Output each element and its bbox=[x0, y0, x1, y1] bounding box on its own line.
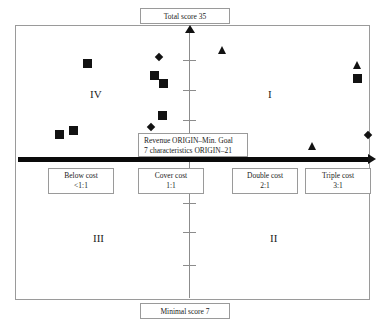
cost-category-triple-cost: Triple cost 3:1 bbox=[305, 168, 371, 194]
data-point-square bbox=[159, 79, 168, 88]
y-axis-tick bbox=[183, 60, 196, 61]
data-point-triangle bbox=[308, 142, 316, 150]
data-point-square bbox=[150, 71, 159, 80]
quadrant-label-three: III bbox=[93, 232, 104, 244]
quadrant-label-four: IV bbox=[90, 88, 102, 100]
plot-frame bbox=[15, 25, 370, 300]
x-axis-line bbox=[18, 157, 370, 162]
y-axis-tick bbox=[183, 265, 196, 266]
origin-annotation-line-1: Revenue ORIGIN–Min. Goal bbox=[144, 136, 244, 146]
data-point-triangle bbox=[353, 61, 361, 69]
y-axis-tick bbox=[183, 203, 196, 204]
data-point-square bbox=[158, 111, 167, 120]
cost-category-name: Below cost bbox=[52, 171, 110, 181]
cost-category-ratio: <1:1 bbox=[52, 181, 110, 191]
y-axis-tick bbox=[183, 120, 196, 121]
cost-category-below-cost: Below cost <1:1 bbox=[48, 168, 114, 194]
y-axis-arrow-icon bbox=[185, 25, 195, 33]
cost-category-ratio: 1:1 bbox=[142, 181, 200, 191]
quadrant-label-one: I bbox=[268, 88, 272, 100]
quadrant-label-two: II bbox=[270, 232, 277, 244]
data-point-square bbox=[83, 59, 92, 68]
cost-category-name: Triple cost bbox=[309, 171, 367, 181]
origin-annotation-box: Revenue ORIGIN–Min. Goal 7 characteristi… bbox=[138, 133, 248, 157]
data-point-square bbox=[55, 130, 64, 139]
cost-category-cover-cost: Cover cost 1:1 bbox=[138, 168, 204, 194]
data-point-square bbox=[69, 126, 78, 135]
data-point-square bbox=[353, 74, 362, 83]
cost-category-double-cost: Double cost 2:1 bbox=[232, 168, 298, 194]
y-axis-min-label: Minimal score 7 bbox=[140, 303, 230, 319]
cost-category-ratio: 2:1 bbox=[236, 181, 294, 191]
cost-category-ratio: 3:1 bbox=[309, 181, 367, 191]
chart-canvas: Total score 35 Minimal score 7 Revenue O… bbox=[0, 0, 385, 332]
y-axis-tick bbox=[183, 90, 196, 91]
x-axis-arrow-icon bbox=[368, 154, 376, 164]
y-axis-max-label: Total score 35 bbox=[140, 8, 230, 24]
y-axis-tick bbox=[183, 232, 196, 233]
cost-category-name: Cover cost bbox=[142, 171, 200, 181]
cost-category-name: Double cost bbox=[236, 171, 294, 181]
data-point-triangle bbox=[218, 46, 226, 54]
origin-annotation-line-2: 7 characteristics ORIGIN–21 bbox=[144, 146, 244, 156]
y-axis-line bbox=[189, 30, 190, 298]
